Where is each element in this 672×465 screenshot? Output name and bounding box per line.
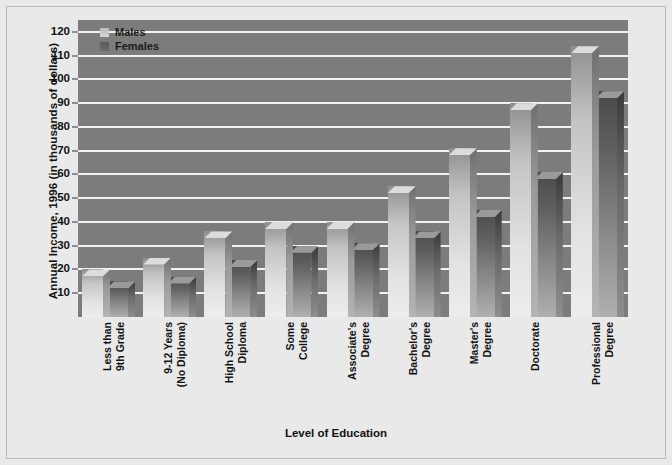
- bar-males-4: [327, 222, 348, 317]
- bar-males-1: [143, 258, 164, 317]
- y-tick-mark-20: [72, 268, 78, 270]
- x-category-line-1: Bachelor's: [407, 322, 420, 414]
- y-tick-label-20: 20: [30, 263, 70, 275]
- y-tick-mark-100: [72, 78, 78, 80]
- bar-face: [413, 231, 434, 317]
- bar-side-face: [495, 210, 502, 317]
- bar-males-3: [265, 222, 286, 317]
- x-axis-category-labels: Less than9th Grade9-12 Years(No Diploma)…: [78, 322, 628, 417]
- y-tick-mark-90: [72, 102, 78, 104]
- y-tick-label-110: 110: [30, 50, 70, 62]
- x-category-line-1: 9-12 Years: [162, 322, 175, 414]
- bar-males-7: [510, 103, 531, 317]
- x-category-line-1: Associate's: [346, 322, 359, 414]
- x-category-line-1: Master's: [468, 322, 481, 414]
- legend: Males Females: [100, 26, 159, 54]
- legend-swatch-males-icon: [100, 28, 109, 37]
- y-tick-label-10: 10: [30, 287, 70, 299]
- legend-item-males: Males: [100, 26, 159, 39]
- bar-males-6: [449, 148, 470, 317]
- plot-area: Males Females: [78, 20, 628, 317]
- bar-side-face: [103, 269, 110, 317]
- bar-side-face: [373, 243, 380, 317]
- y-tick-label-40: 40: [30, 216, 70, 228]
- x-category-line-2: (No Diploma): [175, 322, 188, 414]
- x-category-line-2: 9th Grade: [114, 322, 127, 414]
- bar-series-container: [78, 20, 628, 317]
- bar-face: [510, 103, 531, 317]
- bar-females-4: [352, 243, 373, 317]
- y-tick-mark-40: [72, 221, 78, 223]
- bar-side-face: [556, 172, 563, 317]
- bar-females-6: [474, 210, 495, 317]
- y-tick-mark-120: [72, 31, 78, 33]
- x-category-line-2: Degree: [480, 322, 493, 414]
- bar-females-5: [413, 231, 434, 317]
- bar-face: [82, 269, 103, 317]
- bar-side-face: [286, 222, 293, 317]
- x-category-line-2: Degree: [419, 322, 432, 414]
- x-category-line-2: Degree: [358, 322, 371, 414]
- bar-side-face: [617, 91, 624, 317]
- bar-face: [535, 172, 556, 317]
- bar-face: [596, 91, 617, 317]
- y-tick-mark-10: [72, 292, 78, 294]
- bar-face: [290, 246, 311, 317]
- y-tick-mark-110: [72, 55, 78, 57]
- y-tick-mark-50: [72, 197, 78, 199]
- bar-face: [327, 222, 348, 317]
- x-category-line-1: Doctorate: [529, 322, 542, 414]
- bar-females-2: [229, 260, 250, 317]
- bar-side-face: [470, 148, 477, 317]
- x-category-line-2: Degree: [602, 322, 615, 414]
- x-category-line-1: Some: [284, 322, 297, 414]
- y-tick-label-30: 30: [30, 240, 70, 252]
- x-category-label-8: ProfessionalDegree: [590, 322, 672, 347]
- legend-item-females: Females: [100, 40, 159, 53]
- bar-face: [571, 46, 592, 317]
- bar-males-2: [204, 231, 225, 317]
- bar-side-face: [592, 46, 599, 317]
- y-tick-label-60: 60: [30, 168, 70, 180]
- bar-males-0: [82, 269, 103, 317]
- bar-side-face: [434, 231, 441, 317]
- legend-label-males: Males: [115, 27, 146, 38]
- bar-side-face: [409, 186, 416, 317]
- y-tick-label-50: 50: [30, 192, 70, 204]
- y-tick-label-80: 80: [30, 121, 70, 133]
- x-category-line-1: Professional: [590, 322, 603, 414]
- bar-side-face: [531, 103, 538, 317]
- bar-females-0: [107, 281, 128, 317]
- x-axis-title: Level of Education: [0, 427, 672, 439]
- x-category-line-2: Diploma: [236, 322, 249, 414]
- bar-females-7: [535, 172, 556, 317]
- bar-face: [204, 231, 225, 317]
- bar-side-face: [164, 258, 171, 317]
- bar-face: [352, 243, 373, 317]
- y-tick-mark-30: [72, 245, 78, 247]
- y-tick-mark-80: [72, 126, 78, 128]
- y-tick-label-90: 90: [30, 97, 70, 109]
- x-category-line-2: College: [297, 322, 310, 414]
- bar-face: [388, 186, 409, 317]
- bar-females-3: [290, 246, 311, 317]
- bar-males-8: [571, 46, 592, 317]
- bar-side-face: [348, 222, 355, 317]
- bar-males-5: [388, 186, 409, 317]
- bar-side-face: [311, 246, 318, 317]
- y-tick-mark-60: [72, 173, 78, 175]
- bar-side-face: [225, 231, 232, 317]
- bar-side-face: [189, 277, 196, 317]
- bar-face: [265, 222, 286, 317]
- bar-females-8: [596, 91, 617, 317]
- y-tick-label-70: 70: [30, 145, 70, 157]
- legend-label-females: Females: [115, 41, 159, 52]
- y-tick-mark-70: [72, 150, 78, 152]
- x-category-line-1: Less than: [101, 322, 114, 414]
- bar-females-1: [168, 277, 189, 317]
- legend-swatch-females-icon: [100, 42, 109, 51]
- bar-face: [449, 148, 470, 317]
- bar-face: [474, 210, 495, 317]
- bar-face: [143, 258, 164, 317]
- bar-side-face: [250, 260, 257, 317]
